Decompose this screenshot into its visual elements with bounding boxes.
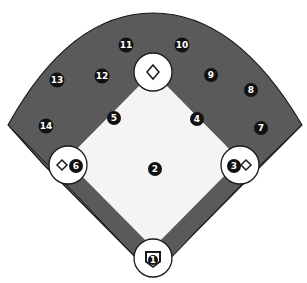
- position-marker-13: 13: [50, 73, 65, 88]
- marker-label: 13: [51, 75, 64, 85]
- marker-label: 12: [96, 71, 109, 81]
- marker-label: 8: [248, 85, 254, 95]
- marker-label: 9: [208, 70, 214, 80]
- second-base: [134, 53, 172, 91]
- position-marker-4: 4: [190, 112, 204, 126]
- marker-label: 3: [231, 161, 237, 171]
- position-marker-11: 11: [119, 38, 134, 53]
- marker-label: 14: [40, 121, 53, 131]
- position-marker-3: 3: [227, 159, 241, 173]
- marker-label: 1: [150, 255, 156, 265]
- position-marker-10: 10: [175, 38, 190, 53]
- marker-label: 4: [194, 114, 200, 124]
- position-marker-8: 8: [244, 83, 258, 97]
- marker-label: 10: [176, 40, 189, 50]
- marker-label: 11: [120, 40, 133, 50]
- position-marker-14: 14: [39, 119, 54, 134]
- marker-label: 2: [152, 164, 158, 174]
- position-marker-9: 9: [204, 68, 218, 82]
- position-marker-5: 5: [107, 111, 121, 125]
- marker-label: 5: [111, 113, 117, 123]
- marker-label: 6: [73, 161, 79, 171]
- position-marker-2: 2: [148, 162, 162, 176]
- baseball-field-diagram: 1234567891011121314: [0, 0, 307, 283]
- position-marker-6: 6: [69, 159, 83, 173]
- position-marker-12: 12: [95, 69, 110, 84]
- marker-label: 7: [258, 123, 264, 133]
- position-marker-7: 7: [254, 121, 268, 135]
